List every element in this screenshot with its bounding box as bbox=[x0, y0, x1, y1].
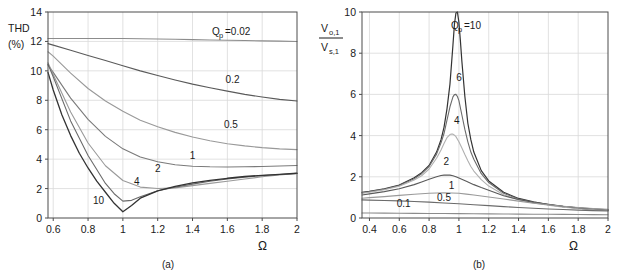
x-tick-label: 1.6 bbox=[541, 223, 556, 235]
chart-a-y-tick-labels: 02468101214 bbox=[30, 6, 48, 224]
chart-a-legend-value: =0.02 bbox=[225, 26, 251, 37]
x-tick-label: 1.6 bbox=[220, 223, 235, 235]
chart-b-y-tick-labels: 0246810 bbox=[344, 6, 362, 224]
y-tick-label: 12 bbox=[30, 35, 42, 47]
x-tick-label: 0.4 bbox=[362, 223, 377, 235]
chart-a-ylabel-line2: (%) bbox=[8, 38, 24, 50]
x-tick-label: 1.2 bbox=[150, 223, 165, 235]
x-tick-label: 1 bbox=[456, 223, 462, 235]
chart-b-ylabel-fraction: V o,1 V s,1 bbox=[319, 22, 343, 56]
y-tick-label: 10 bbox=[344, 6, 356, 18]
chart-b-ylabel-denominator-subscript: s,1 bbox=[329, 47, 339, 56]
chart-b-gridlines bbox=[362, 12, 608, 218]
x-tick-label: 1.8 bbox=[571, 223, 586, 235]
x-tick-label: 1.4 bbox=[511, 223, 526, 235]
chart-b-ylabel-numerator-subscript: o,1 bbox=[329, 28, 339, 37]
x-tick-label: 1.2 bbox=[481, 223, 496, 235]
curve-label-2: 2 bbox=[155, 163, 161, 174]
chart-a-svg: 0.60.811.21.41.61.82 02468101214 0.20.51… bbox=[0, 0, 311, 273]
curve-label-6: 6 bbox=[456, 72, 462, 83]
curve-label-2: 2 bbox=[443, 156, 449, 167]
curve-label-1: 1 bbox=[190, 150, 196, 161]
chart-b-legend-qp: Q p =10 bbox=[451, 20, 481, 34]
y-tick-label: 6 bbox=[36, 124, 42, 136]
panel-a: 0.60.811.21.41.61.82 02468101214 0.20.51… bbox=[0, 0, 311, 273]
curve-label-0-5: 0.5 bbox=[437, 192, 451, 203]
chart-a-curve-labels: 0.20.512410 bbox=[93, 74, 240, 206]
chart-a-ylabel-line1: THD bbox=[8, 22, 30, 34]
x-tick-label: 2 bbox=[605, 223, 611, 235]
chart-b-legend-subscript: p bbox=[458, 25, 462, 34]
chart-b-svg: 0.40.60.811.21.41.61.82 0246810 64210.50… bbox=[311, 0, 622, 273]
y-tick-label: 6 bbox=[350, 88, 356, 100]
chart-a-legend-subscript: p bbox=[219, 31, 223, 40]
chart-b-xlabel: Ω bbox=[569, 239, 578, 253]
curve-2 bbox=[48, 63, 297, 189]
curve-label-1: 1 bbox=[449, 180, 455, 191]
curve-4 bbox=[48, 64, 297, 201]
chart-b-caption: (b) bbox=[473, 259, 485, 270]
chart-b-legend-value: =10 bbox=[464, 20, 481, 31]
x-tick-label: 1.4 bbox=[185, 223, 200, 235]
x-tick-label: 0.6 bbox=[392, 223, 407, 235]
curve-label-10: 10 bbox=[93, 195, 105, 206]
y-tick-label: 8 bbox=[36, 94, 42, 106]
y-tick-label: 2 bbox=[36, 183, 42, 195]
chart-a-legend-qp: Q p =0.02 bbox=[212, 26, 251, 40]
curve-label-0-2: 0.2 bbox=[226, 74, 240, 85]
x-tick-label: 2 bbox=[294, 223, 300, 235]
figure-container: 0.60.811.21.41.61.82 02468101214 0.20.51… bbox=[0, 0, 622, 273]
curve-0-2 bbox=[48, 44, 297, 101]
curve-label-4: 4 bbox=[454, 115, 460, 126]
chart-a-curves bbox=[48, 38, 297, 211]
chart-a-caption: (a) bbox=[162, 259, 174, 270]
curve-10 bbox=[48, 72, 297, 211]
x-tick-label: 0.6 bbox=[46, 223, 61, 235]
x-tick-label: 1.8 bbox=[255, 223, 270, 235]
y-tick-label: 4 bbox=[350, 130, 356, 142]
chart-b-x-tick-labels: 0.40.60.811.21.41.61.82 bbox=[362, 218, 611, 235]
chart-a-xlabel: Ω bbox=[258, 239, 267, 253]
curve-0-02 bbox=[48, 38, 297, 41]
y-tick-label: 8 bbox=[350, 47, 356, 59]
y-tick-label: 0 bbox=[36, 212, 42, 224]
y-tick-label: 2 bbox=[350, 171, 356, 183]
y-tick-label: 4 bbox=[36, 153, 42, 165]
curve-label-0-5: 0.5 bbox=[224, 119, 238, 130]
curve-label-4: 4 bbox=[134, 176, 140, 187]
chart-b-ylabel-numerator: V bbox=[321, 22, 328, 34]
curve-1 bbox=[48, 65, 297, 167]
curve-label-0-1: 0.1 bbox=[397, 198, 411, 209]
panel-b: 0.40.60.811.21.41.61.82 0246810 64210.50… bbox=[311, 0, 622, 273]
y-tick-label: 0 bbox=[350, 212, 356, 224]
y-tick-label: 10 bbox=[30, 65, 42, 77]
x-tick-label: 1 bbox=[120, 223, 126, 235]
chart-a-x-tick-labels: 0.60.811.21.41.61.82 bbox=[46, 218, 300, 235]
x-tick-label: 0.8 bbox=[422, 223, 437, 235]
chart-b-ylabel-denominator: V bbox=[321, 41, 328, 53]
y-tick-label: 14 bbox=[30, 6, 42, 18]
x-tick-label: 0.8 bbox=[81, 223, 96, 235]
